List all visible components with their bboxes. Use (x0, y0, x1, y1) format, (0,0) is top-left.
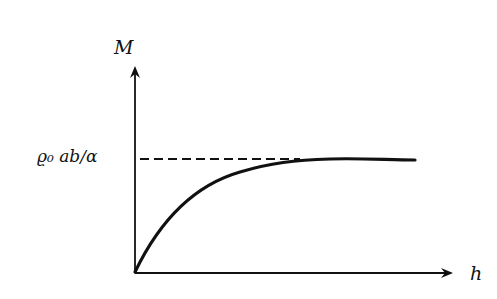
asymptote-label: ϱ₀ ab/α (37, 146, 97, 166)
saturation-curve (135, 159, 415, 272)
y-axis-label: M (114, 36, 133, 58)
x-axis-label: h (470, 262, 482, 284)
